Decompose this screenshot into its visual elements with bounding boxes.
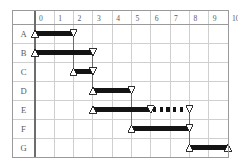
row-label-b: B [21,48,27,58]
task-segment-solid[interactable] [93,88,132,93]
task-segment-solid[interactable] [35,31,74,36]
x-axis-tick-label: 10 [232,14,238,23]
x-axis-tick-label: 8 [193,14,197,23]
task-segment-solid[interactable] [189,145,228,150]
gantt-chart: 012345678910 ABCDEFG [0,0,238,166]
task-segment-solid[interactable] [132,126,190,131]
x-axis-tick-label: 0 [39,14,43,23]
row-label-g: G [20,143,26,153]
x-axis-tick-label: 4 [116,14,120,23]
row-label-c: C [21,67,27,77]
row-label-d: D [20,86,26,96]
gantt-chart-canvas: 012345678910 ABCDEFG [0,0,238,166]
row-label-a: A [20,29,27,39]
x-axis-tick-label: 9 [213,14,217,23]
x-axis-tick-label: 7 [174,14,178,23]
task-segment-solid[interactable] [35,50,93,55]
x-axis-tick-label: 1 [58,14,62,23]
x-axis-tick-label: 2 [78,14,82,23]
row-label-f: F [21,124,26,134]
x-axis-tick-label: 6 [155,14,159,23]
row-label-e: E [21,105,26,115]
task-segment-solid[interactable] [93,107,151,112]
x-axis-tick-label: 5 [136,14,140,23]
x-axis-tick-label: 3 [97,14,101,23]
